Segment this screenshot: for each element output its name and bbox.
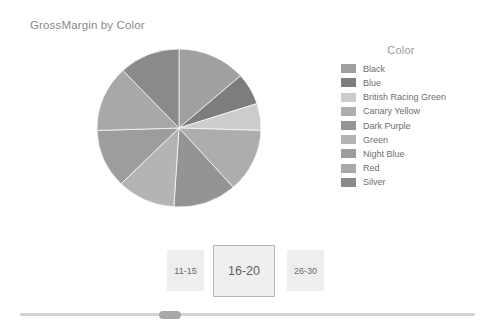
slicer-tile[interactable]: 26-30 bbox=[287, 250, 324, 291]
legend-swatch-icon bbox=[341, 149, 356, 158]
legend-swatch-icon bbox=[341, 164, 356, 173]
legend-item-label: Night Blue bbox=[363, 149, 405, 159]
legend-item[interactable]: British Racing Green bbox=[341, 90, 486, 104]
legend-item-label: Silver bbox=[363, 177, 386, 187]
legend-swatch-icon bbox=[341, 64, 356, 73]
legend-swatch-icon bbox=[341, 107, 356, 116]
legend-item-label: Green bbox=[363, 135, 388, 145]
legend-swatch-icon bbox=[341, 78, 356, 87]
slicer-tile[interactable]: 11-15 bbox=[167, 250, 204, 291]
horizontal-scrollbar[interactable] bbox=[20, 313, 475, 316]
pie-chart-svg[interactable] bbox=[96, 48, 262, 208]
legend-item[interactable]: Silver bbox=[341, 176, 486, 190]
legend-swatch-icon bbox=[341, 93, 356, 102]
slicer[interactable]: 11-1516-2026-30 bbox=[163, 245, 343, 300]
legend-swatch-icon bbox=[341, 178, 356, 187]
legend-item[interactable]: Canary Yellow bbox=[341, 105, 486, 119]
legend-item[interactable]: Blue bbox=[341, 76, 486, 90]
page-title: GrossMargin by Color bbox=[30, 19, 145, 31]
legend-item-label: British Racing Green bbox=[363, 92, 446, 102]
legend: Color BlackBlueBritish Racing GreenCanar… bbox=[341, 44, 486, 190]
slicer-tile-selected[interactable]: 16-20 bbox=[213, 245, 275, 297]
legend-item[interactable]: Green bbox=[341, 133, 486, 147]
legend-item-label: Red bbox=[363, 163, 380, 173]
legend-item-label: Blue bbox=[363, 78, 381, 88]
scrollbar-thumb[interactable] bbox=[159, 311, 181, 319]
legend-title: Color bbox=[353, 44, 449, 56]
report-canvas: GrossMargin by Color Color BlackBlueBrit… bbox=[0, 0, 489, 329]
legend-item[interactable]: Black bbox=[341, 62, 486, 76]
pie-slice-group[interactable] bbox=[97, 49, 261, 207]
legend-item[interactable]: Night Blue bbox=[341, 147, 486, 161]
legend-item[interactable]: Red bbox=[341, 161, 486, 175]
legend-item[interactable]: Dark Purple bbox=[341, 119, 486, 133]
legend-swatch-icon bbox=[341, 135, 356, 144]
legend-item-label: Dark Purple bbox=[363, 121, 411, 131]
legend-item-list: BlackBlueBritish Racing GreenCanary Yell… bbox=[341, 62, 486, 189]
legend-swatch-icon bbox=[341, 121, 356, 130]
pie-chart[interactable] bbox=[96, 48, 262, 208]
legend-item-label: Canary Yellow bbox=[363, 106, 420, 116]
legend-item-label: Black bbox=[363, 64, 385, 74]
